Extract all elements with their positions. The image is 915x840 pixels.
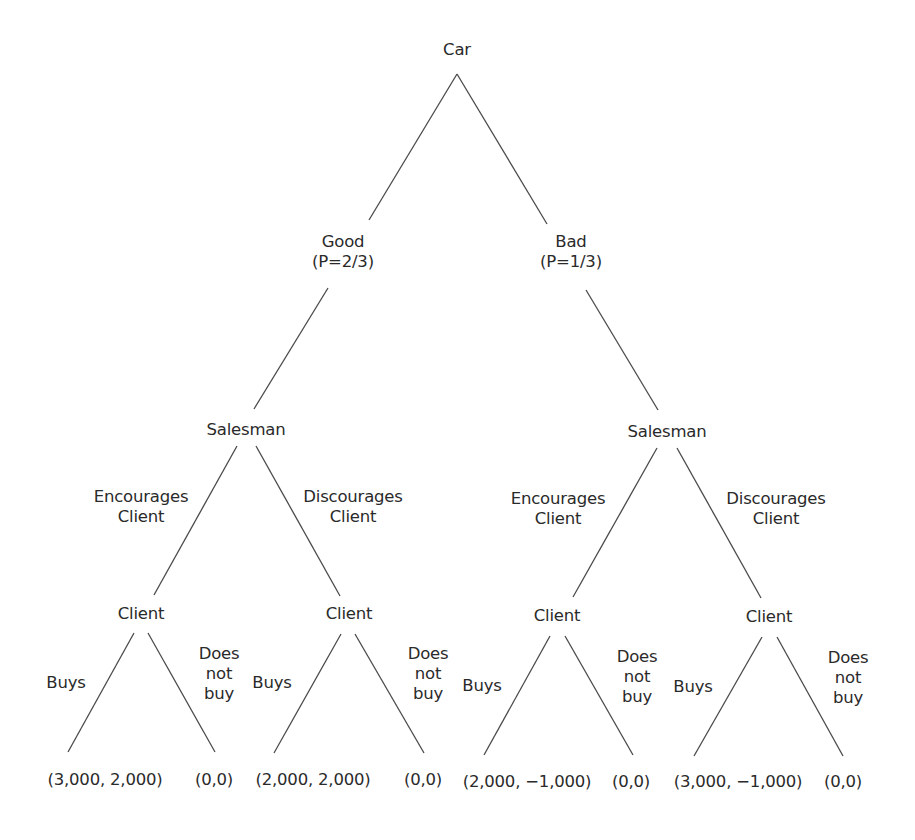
action-label-line: Discourages bbox=[726, 489, 825, 509]
payoff-2-not-buy: (0,0) bbox=[404, 770, 442, 790]
payoff-1-not-buy: (0,0) bbox=[195, 770, 233, 790]
action-label-line: Does bbox=[828, 648, 869, 668]
node-car: Car bbox=[443, 40, 471, 60]
node-client-3: Client bbox=[534, 606, 581, 626]
branch-bad-label: Bad bbox=[540, 232, 602, 252]
action-label-line: Does bbox=[617, 647, 658, 667]
action-label-line: Client bbox=[726, 509, 825, 529]
action-encourages-1: Encourages Client bbox=[94, 487, 189, 527]
action-encourages-2: Encourages Client bbox=[511, 489, 606, 529]
edge-client2-buys bbox=[274, 634, 341, 753]
action-buys-3: Buys bbox=[462, 676, 501, 696]
node-client-2: Client bbox=[326, 604, 373, 624]
action-not-buy-4: Does not buy bbox=[828, 648, 869, 708]
node-salesman-2: Salesman bbox=[628, 422, 707, 442]
action-label-line: Discourages bbox=[303, 487, 402, 507]
branch-good-probability: (P=2/3) bbox=[312, 252, 374, 272]
action-label-line: Client bbox=[94, 507, 189, 527]
action-not-buy-3: Does not buy bbox=[617, 647, 658, 707]
payoff-4-buy: (3,000, −1,000) bbox=[674, 772, 803, 792]
action-label-line: Does bbox=[199, 644, 240, 664]
action-label-line: buy bbox=[408, 684, 449, 704]
edge-good-salesman bbox=[254, 288, 328, 409]
branch-good-label: Good bbox=[312, 232, 374, 252]
payoff-4-not-buy: (0,0) bbox=[824, 772, 862, 792]
action-label-line: Client bbox=[303, 507, 402, 527]
payoff-2-buy: (2,000, 2,000) bbox=[255, 770, 370, 790]
payoff-3-buy: (2,000, −1,000) bbox=[463, 772, 592, 792]
node-client-1: Client bbox=[118, 604, 165, 624]
action-label-line: Client bbox=[511, 509, 606, 529]
action-label-line: buy bbox=[828, 688, 869, 708]
branch-bad-probability: (P=1/3) bbox=[540, 252, 602, 272]
action-not-buy-1: Does not buy bbox=[199, 644, 240, 704]
action-label-line: not bbox=[617, 667, 658, 687]
tree-edges bbox=[0, 0, 915, 840]
edge-car-bad bbox=[457, 74, 547, 224]
edge-car-good bbox=[369, 74, 457, 220]
action-discourages-2: Discourages Client bbox=[726, 489, 825, 529]
node-salesman-1: Salesman bbox=[207, 420, 286, 440]
payoff-3-not-buy: (0,0) bbox=[612, 772, 650, 792]
action-discourages-1: Discourages Client bbox=[303, 487, 402, 527]
node-good: Good (P=2/3) bbox=[312, 232, 374, 272]
action-buys-1: Buys bbox=[46, 673, 85, 693]
action-label-line: Encourages bbox=[94, 487, 189, 507]
action-label-line: not bbox=[199, 664, 240, 684]
node-bad: Bad (P=1/3) bbox=[540, 232, 602, 272]
action-buys-4: Buys bbox=[673, 677, 712, 697]
action-buys-2: Buys bbox=[252, 673, 291, 693]
action-label-line: not bbox=[828, 668, 869, 688]
action-label-line: Encourages bbox=[511, 489, 606, 509]
payoff-1-buy: (3,000, 2,000) bbox=[47, 770, 162, 790]
action-label-line: Does bbox=[408, 644, 449, 664]
action-not-buy-2: Does not buy bbox=[408, 644, 449, 704]
action-label-line: buy bbox=[617, 687, 658, 707]
edge-bad-salesman bbox=[586, 290, 658, 410]
action-label-line: buy bbox=[199, 684, 240, 704]
node-client-4: Client bbox=[746, 607, 793, 627]
action-label-line: not bbox=[408, 664, 449, 684]
